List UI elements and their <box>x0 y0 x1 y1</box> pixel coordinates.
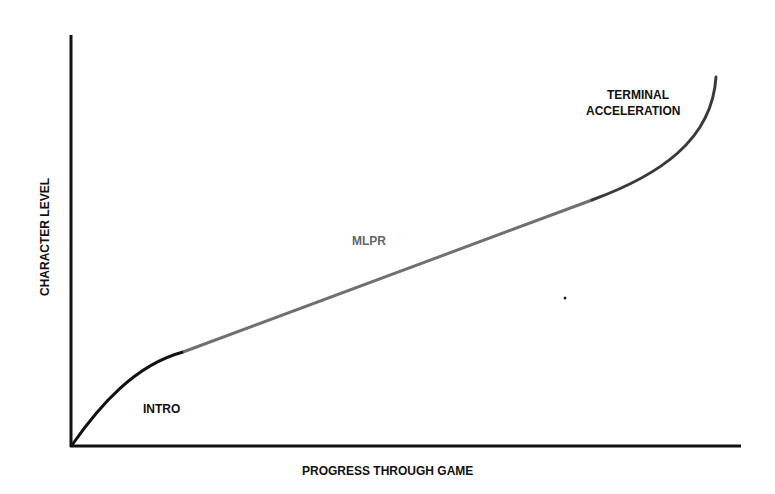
x-axis-title: PROGRESS THROUGH GAME <box>302 464 473 478</box>
terminal-label-line1: TERMINAL <box>607 88 669 102</box>
mlpr-line <box>183 200 592 352</box>
mlpr-label: MLPR <box>352 234 386 248</box>
stray-dot <box>564 297 567 300</box>
y-axis-title: CHARACTER LEVEL <box>38 178 52 296</box>
terminal-label-line2: ACCELERATION <box>586 104 680 118</box>
chart-canvas: INTRO MLPR TERMINAL ACCELERATION PROGRES… <box>0 0 775 494</box>
intro-label: INTRO <box>143 402 180 416</box>
intro-curve <box>72 352 183 445</box>
